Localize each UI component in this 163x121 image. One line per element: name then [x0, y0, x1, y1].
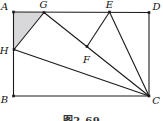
point-label-a: A [0, 1, 8, 12]
point-dot-g [43, 11, 46, 14]
point-label-e: E [105, 0, 114, 10]
point-label-d: D [151, 1, 160, 12]
point-label-c: C [152, 95, 160, 106]
segment-ad [14, 12, 150, 13]
figure-caption: 图2-69 [0, 112, 163, 121]
point-dot-a [12, 11, 15, 14]
segment-ec [110, 12, 150, 96]
point-label-h: H [0, 45, 9, 56]
segment-gc [44, 13, 149, 97]
point-dot-h [13, 48, 16, 51]
point-dot-d [148, 11, 151, 14]
point-label-b: B [0, 94, 8, 105]
segment-ef [87, 12, 110, 47]
point-dot-c [148, 95, 151, 98]
point-dot-b [12, 95, 15, 98]
point-label-f: F [82, 54, 91, 65]
geometry-figure: ABCDEFGH 图2-69 [0, 0, 163, 121]
point-dot-e [108, 11, 111, 14]
point-label-g: G [40, 0, 48, 10]
rectangle-abcd-diagram: ABCDEFGH [0, 0, 163, 121]
point-dot-f [86, 45, 89, 48]
segment-hc [14, 50, 149, 97]
